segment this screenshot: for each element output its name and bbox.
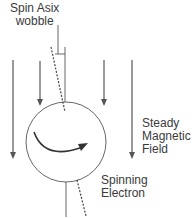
spinning-electron-label: Spinning Electron <box>101 174 148 200</box>
magnetic-field-label: Steady Magnetic Field <box>142 117 191 156</box>
spin-wobble-diagram: Spin Asix wobble Steady Magnetic Field S… <box>0 0 194 218</box>
spin-axis-wobble-label: Spin Asix wobble <box>10 2 59 28</box>
title-line-2: wobble <box>10 15 59 28</box>
arrowhead-icon <box>129 152 135 159</box>
rotation-arrow <box>34 132 80 152</box>
arrowhead-icon <box>10 152 16 159</box>
spin-axis-tilted-top <box>51 47 65 112</box>
field-arrows <box>10 60 135 159</box>
arrowhead-icon <box>101 99 107 106</box>
electron-label-line-2: Electron <box>101 187 148 200</box>
spin-axis-tilted-bottom <box>77 180 86 216</box>
field-label-line-3: Field <box>142 143 191 156</box>
arrowhead-icon <box>37 99 43 106</box>
electron-circle <box>26 102 106 182</box>
diagram-canvas <box>0 0 194 218</box>
rotation-arrowhead-icon <box>78 143 88 151</box>
